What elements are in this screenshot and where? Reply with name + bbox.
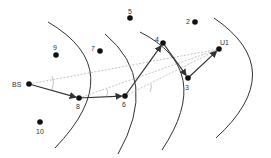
node-dot <box>97 48 103 54</box>
node-10: 10 <box>36 119 44 135</box>
node-label: 7 <box>91 45 95 52</box>
node-6: 6 <box>122 93 128 108</box>
hop-8-6 <box>79 96 122 98</box>
node-label: 10 <box>36 128 44 135</box>
node-label: 5 <box>128 8 132 15</box>
ray-8-U1 <box>79 49 219 98</box>
node-dot <box>185 75 191 81</box>
node-dot <box>26 81 32 87</box>
hop-3-U1 <box>188 51 216 78</box>
node-dot <box>160 40 166 46</box>
node-label: 6 <box>122 101 126 108</box>
node-8: 8 <box>76 95 82 110</box>
node-3: 3 <box>185 75 191 91</box>
relay-routing-diagram: BS8643U1529710 <box>0 0 271 158</box>
node-dot <box>127 15 133 21</box>
coverage-arc-4 <box>214 18 253 138</box>
node-dot <box>192 19 198 25</box>
node-label: 9 <box>53 44 57 51</box>
coverage-arc-2 <box>105 34 136 154</box>
node-bs: BS <box>12 81 32 88</box>
hop-4-3 <box>163 43 186 75</box>
angle-arc-8 <box>106 89 108 97</box>
angle-arc-6 <box>150 84 151 92</box>
angle-arc-bs <box>52 76 54 90</box>
node-dot <box>37 119 43 125</box>
node-dot <box>216 46 222 52</box>
node-label: 3 <box>185 84 189 91</box>
diagram-canvas: BS8643U1529710 <box>0 0 271 158</box>
node-u1: U1 <box>216 39 229 52</box>
node-label: U1 <box>220 39 229 46</box>
node-label: 2 <box>186 18 190 25</box>
node-9: 9 <box>53 44 59 58</box>
node-label: BS <box>12 81 22 88</box>
coverage-arc-3 <box>140 32 184 150</box>
coverage-arc-1 <box>48 22 91 148</box>
node-label: 8 <box>76 103 80 110</box>
node-2: 2 <box>186 18 198 25</box>
node-dot <box>122 93 128 99</box>
node-5: 5 <box>127 8 133 21</box>
hop-BS-8 <box>29 84 76 97</box>
node-dot <box>76 95 82 101</box>
nodes: BS8643U1529710 <box>12 8 229 135</box>
node-7: 7 <box>91 45 103 54</box>
node-dot <box>53 52 59 58</box>
node-label: 4 <box>155 36 159 43</box>
